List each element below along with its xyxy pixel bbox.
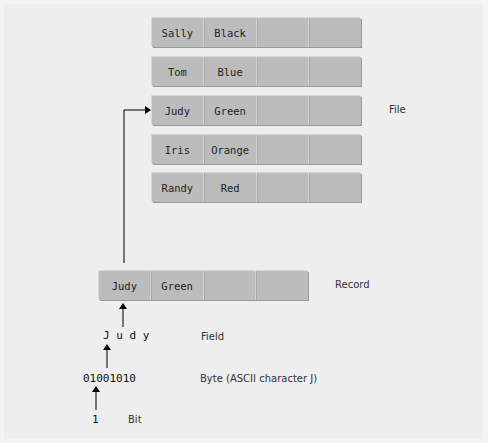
record-to-file-arrow: [124, 110, 150, 263]
arrows-layer: [0, 0, 488, 443]
